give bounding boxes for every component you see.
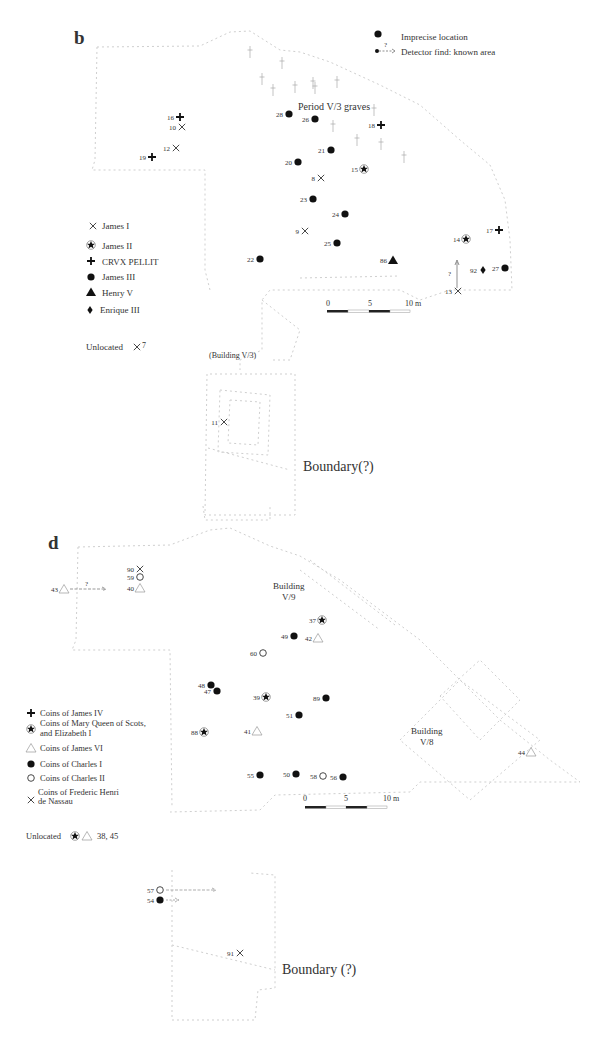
site-plan-figure: b Period V/3 graves Imprecise location	[0, 0, 597, 1044]
find-marker: 15	[351, 165, 368, 174]
triangle-open-icon	[526, 748, 536, 757]
find-marker: 14	[453, 235, 470, 244]
panel-b-legend: James I James II CRVX PELLIT James III H…	[86, 221, 159, 352]
unlocated-values: 7	[142, 341, 146, 350]
find-marker: 56	[330, 773, 347, 782]
circle-open-icon	[137, 574, 144, 581]
find-marker: 8	[312, 175, 325, 183]
building-v3-label: (Building V/3)	[209, 351, 257, 360]
circle-open-icon	[157, 887, 164, 894]
plus-icon	[176, 113, 184, 121]
panel-d-legend: Coins of James IV Coins of Mary Queen of…	[26, 708, 146, 841]
legend-james-vi: Coins of James VI	[40, 743, 103, 753]
legend-james-ii: James II	[102, 241, 132, 251]
find-number: 23	[300, 196, 308, 204]
cross-x-icon	[179, 124, 185, 130]
find-number: 8	[312, 175, 316, 183]
dot-icon	[309, 195, 316, 202]
dot-icon	[311, 115, 318, 122]
question-mark: ?	[384, 41, 387, 49]
legend-enrique-iii: Enrique III	[100, 305, 140, 315]
find-marker: 91	[227, 950, 243, 958]
find-number: 10	[169, 124, 177, 132]
scale-tick-10m: 10 m	[383, 794, 400, 803]
find-marker: 47	[204, 687, 221, 696]
panel-b-finds: 1610121928261821201582324925228614172792…	[139, 110, 509, 427]
find-marker: 18	[368, 121, 385, 130]
legend-henry-v: Henry V	[102, 288, 134, 298]
plus-icon	[148, 153, 156, 161]
scale-tick-0: 0	[303, 794, 307, 803]
plus-icon	[495, 226, 503, 234]
find-marker: 90	[127, 566, 143, 574]
legend-james-iv: Coins of James IV	[40, 708, 104, 718]
find-marker: 86	[380, 256, 398, 266]
find-number: 91	[227, 950, 235, 958]
dot-icon	[290, 632, 297, 639]
find-marker: 9	[296, 228, 309, 236]
find-marker: 54	[147, 896, 164, 905]
find-number: 37	[309, 617, 317, 625]
find-number: 12	[163, 145, 171, 153]
panel-b-label: b	[74, 27, 85, 48]
find-number: 13	[445, 288, 453, 296]
find-marker: 26	[302, 115, 319, 124]
boundary-label-b: Boundary(?)	[303, 459, 374, 475]
building-v8-label-2: V/8	[420, 737, 434, 747]
panel-d-label: d	[48, 532, 59, 553]
circle-open-icon	[260, 650, 267, 657]
find-marker: 49	[281, 632, 298, 641]
find-number: 27	[492, 265, 500, 273]
unlocated-label-d: Unlocated	[26, 831, 62, 841]
find-marker: 43	[51, 585, 69, 595]
detector-arrow	[455, 260, 459, 288]
find-marker: 58	[310, 773, 326, 781]
find-number: 40	[127, 585, 135, 593]
find-marker: 16	[167, 113, 184, 122]
find-marker: 25	[324, 239, 341, 248]
find-marker: 24	[332, 210, 349, 219]
panel-d-finds: 9059404337494260484739895188415550585644…	[51, 566, 536, 958]
find-marker: 20	[285, 158, 302, 167]
dot-icon	[285, 110, 292, 117]
find-number: 28	[276, 111, 284, 119]
panel-b-header-legend: Imprecise location ? Detector find: know…	[374, 30, 495, 57]
legend-crvx-pellit: CRVX PELLIT	[102, 257, 159, 267]
building-v9-label-2: V/9	[282, 592, 296, 602]
find-number: 51	[286, 712, 294, 720]
find-number: 55	[247, 772, 255, 780]
panel-d-site-outline	[72, 505, 580, 1020]
find-marker: 88	[191, 728, 208, 737]
dot-icon	[333, 239, 340, 246]
dot-icon	[256, 255, 263, 262]
find-number: 90	[127, 566, 135, 574]
find-number: 44	[518, 749, 526, 757]
dot-icon	[294, 158, 301, 165]
legend-mary-elizabeth: Coins of Mary Queen of Scots,	[40, 718, 146, 728]
dot-icon	[327, 146, 334, 153]
unlocated-values-d: 38, 45	[97, 831, 118, 841]
dot-icon	[213, 687, 220, 694]
legend-detector-find: Detector find: known area	[401, 47, 495, 57]
find-marker: 23	[300, 195, 317, 204]
scale-tick-0: 0	[326, 299, 330, 308]
find-number: 26	[302, 116, 310, 124]
find-marker: 19	[139, 153, 156, 162]
cross-x-icon	[137, 566, 143, 572]
legend-imprecise-location: Imprecise location	[401, 32, 468, 42]
dot-icon	[341, 210, 348, 217]
plus-icon	[377, 121, 385, 129]
find-number: 39	[253, 694, 261, 702]
find-marker: 41	[244, 727, 262, 737]
find-marker: 60	[250, 650, 266, 658]
find-number: 60	[250, 650, 258, 658]
find-marker: 44	[518, 748, 536, 758]
question-mark: ?	[85, 580, 88, 588]
find-number: 24	[332, 211, 340, 219]
panel-b: b Period V/3 graves Imprecise location	[74, 27, 512, 515]
find-number: 9	[296, 228, 300, 236]
star-circle-icon	[360, 165, 369, 174]
find-number: 21	[318, 147, 326, 155]
dot-icon	[292, 770, 299, 777]
building-v9-label: Building	[273, 581, 305, 591]
